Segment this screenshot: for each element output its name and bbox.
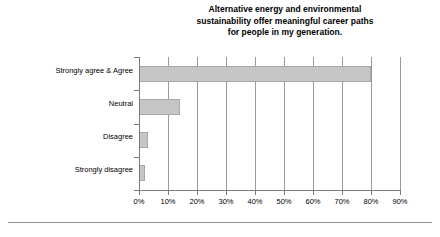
bottom-divider bbox=[8, 222, 432, 223]
x-axis-label-90%: 90% bbox=[380, 197, 420, 206]
chart-figure: Alternative energy and environmental sus… bbox=[0, 0, 440, 237]
x-axis-tick-labels: 0%10%20%30%40%50%60%70%80%90% bbox=[0, 0, 440, 237]
